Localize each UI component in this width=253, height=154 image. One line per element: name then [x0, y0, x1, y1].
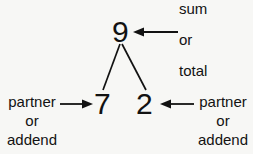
- part-left-label-block: partner or addend: [4, 94, 60, 148]
- part-right-label-line-2: or: [216, 113, 229, 129]
- arrow-to-total-icon: [133, 28, 178, 37]
- part-right-label-block: partner or addend: [195, 94, 251, 148]
- arrow-to-right-part-icon: [160, 100, 194, 109]
- arrow-to-left-part-icon: [60, 100, 93, 109]
- part-left-label-line-2: or: [25, 113, 38, 129]
- total-value: 9: [112, 17, 129, 47]
- total-label-line-1: sum: [179, 1, 207, 17]
- part-left-value: 7: [94, 89, 111, 119]
- part-right-value: 2: [136, 89, 153, 119]
- total-label-line-3: total: [179, 63, 207, 79]
- part-right-label-line-3: addend: [198, 132, 248, 148]
- bond-line-left: [103, 44, 120, 90]
- number-bond-diagram: 9 7 2 sum or total partner or addend par…: [0, 0, 253, 154]
- part-left-label-line-3: addend: [7, 132, 57, 148]
- bond-line-right: [122, 44, 146, 90]
- part-left-label-line-1: partner: [8, 94, 56, 110]
- part-right-label-line-1: partner: [199, 94, 247, 110]
- total-label-line-2: or: [179, 32, 192, 48]
- total-label-block: sum or total: [179, 1, 207, 79]
